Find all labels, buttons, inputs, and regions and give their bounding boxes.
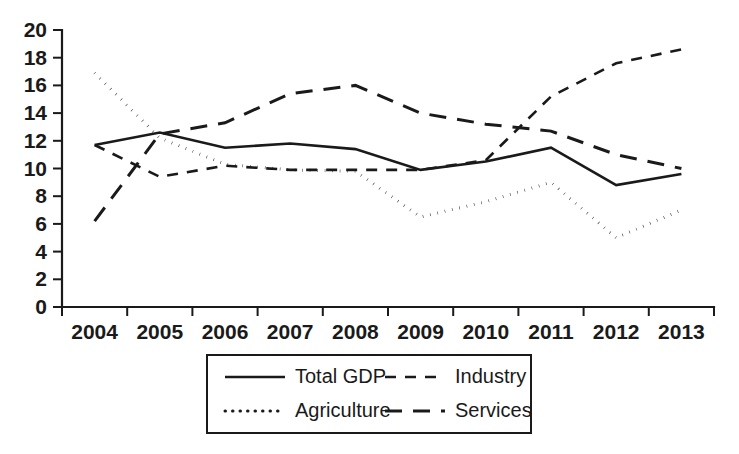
series-line-total-gdp: [95, 132, 682, 185]
y-tick-label: 20: [24, 18, 47, 41]
chart-legend: Total GDPIndustryAgricultureServices: [207, 355, 532, 433]
x-tick-label: 2013: [658, 320, 705, 343]
chart-svg: 02468101214161820 2004200520062007200820…: [0, 0, 739, 454]
y-tick-label: 18: [24, 46, 48, 69]
y-axis: 02468101214161820: [24, 18, 62, 318]
x-tick-label: 2012: [593, 320, 640, 343]
x-tick-label: 2004: [71, 320, 118, 343]
y-tick-label: 2: [35, 267, 47, 290]
x-tick-label: 2008: [332, 320, 379, 343]
x-tick-label: 2006: [202, 320, 249, 343]
legend-label-services: Services: [455, 399, 532, 421]
y-tick-label: 4: [35, 240, 47, 263]
series-line-industry: [95, 49, 682, 176]
x-tick-label: 2007: [267, 320, 314, 343]
series-line-services: [95, 85, 682, 221]
y-tick-label: 12: [24, 129, 47, 152]
x-tick-label: 2010: [462, 320, 509, 343]
y-tick-label: 0: [35, 295, 47, 318]
y-tick-label: 8: [35, 184, 47, 207]
legend-label-industry: Industry: [455, 365, 526, 387]
y-tick-label: 14: [24, 101, 48, 124]
y-tick-label: 10: [24, 157, 47, 180]
x-axis: 2004200520062007200820092010201120122013: [62, 307, 714, 343]
line-chart: 02468101214161820 2004200520062007200820…: [0, 0, 739, 454]
x-tick-label: 2005: [136, 320, 183, 343]
legend-label-total-gdp: Total GDP: [295, 365, 386, 387]
series-lines: [95, 49, 682, 237]
y-tick-label: 16: [24, 73, 47, 96]
x-tick-label: 2011: [528, 320, 574, 343]
x-tick-label: 2009: [397, 320, 444, 343]
legend-label-agriculture: Agriculture: [295, 399, 391, 421]
y-tick-label: 6: [35, 212, 47, 235]
